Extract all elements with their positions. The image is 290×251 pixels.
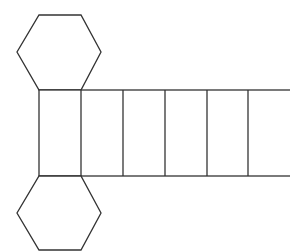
bottom-hexagon-face <box>17 176 101 250</box>
top-hexagon-face <box>17 15 101 90</box>
prism-net-diagram <box>0 0 290 251</box>
lateral-faces-strip <box>39 90 290 176</box>
